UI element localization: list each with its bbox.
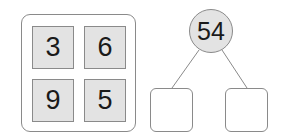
part-box-right[interactable] — [225, 88, 268, 132]
part-box-left[interactable] — [150, 88, 193, 132]
whole-number-circle: 54 — [189, 9, 233, 53]
